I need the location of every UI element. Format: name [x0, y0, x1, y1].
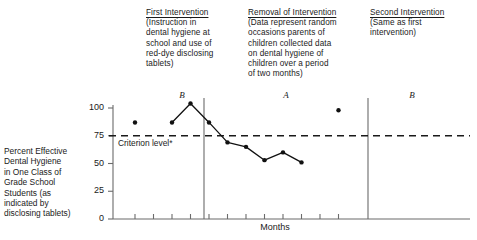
phase-separator-lines: [204, 98, 368, 219]
x-axis-ticks: [135, 214, 339, 219]
data-markers: [133, 101, 341, 164]
y-axis-ticks: [108, 108, 113, 219]
plot-area: [0, 0, 477, 240]
axes: [113, 105, 470, 219]
figure-single-case-design-chart: First Intervention (Instruction in denta…: [0, 0, 477, 240]
